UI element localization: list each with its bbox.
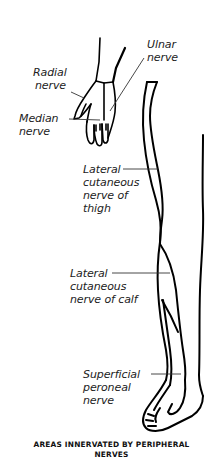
leg-drawing [143,82,203,431]
label-line: Lateral [70,267,138,280]
label-line: Ulnar [147,38,178,51]
label-superficial-peroneal-nerve: Superficial peroneal nerve [83,368,140,407]
label-line: Median [19,112,58,125]
label-line: nerve [33,79,67,92]
label-lateral-cutaneous-nerve-calf: Lateral cutaneous nerve of calf [70,267,138,306]
label-line: nerve [147,51,178,64]
label-lateral-cutaneous-nerve-thigh: Lateral cutaneous nerve of thigh [83,163,139,215]
label-ulnar-nerve: Ulnar nerve [147,38,178,64]
label-line: peroneal [83,381,140,394]
label-line: Radial [33,66,67,79]
label-median-nerve: Median nerve [19,112,58,138]
label-line: nerve of calf [70,293,138,306]
caption-line-1: AREAS INNERVATED BY PERIPHERAL [0,440,223,450]
label-line: Superficial [83,368,140,381]
label-line: cutaneous [83,176,139,189]
label-line: nerve [19,125,58,138]
label-line: Lateral [83,163,139,176]
label-radial-nerve: Radial nerve [33,66,67,92]
label-line: thigh [83,202,139,215]
label-line: nerve of [83,189,139,202]
label-line: nerve [83,394,140,407]
label-line: cutaneous [70,280,138,293]
hand-drawing [74,38,125,146]
nerve-diagram: Radial nerve Ulnar nerve Median nerve La… [0,0,223,468]
figure-caption: AREAS INNERVATED BY PERIPHERAL NERVES [0,440,223,460]
caption-line-2: NERVES [0,450,223,460]
